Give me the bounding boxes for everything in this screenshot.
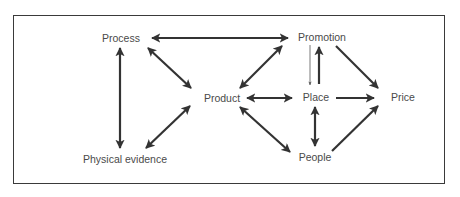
node-place: Place: [303, 91, 329, 103]
node-people: People: [299, 151, 332, 163]
arrow-physical-evidence-product: [146, 106, 190, 148]
arrow-people-price: [332, 106, 378, 151]
node-promotion: Promotion: [298, 31, 346, 43]
arrow-process-product: [148, 48, 191, 88]
node-physical-evidence: Physical evidence: [83, 153, 167, 165]
node-process: Process: [102, 32, 140, 44]
arrow-promotion-price: [336, 46, 378, 88]
arrow-product-people: [240, 107, 290, 152]
node-price: Price: [391, 91, 415, 103]
node-product: Product: [204, 92, 240, 104]
arrow-promotion-product: [240, 46, 282, 88]
